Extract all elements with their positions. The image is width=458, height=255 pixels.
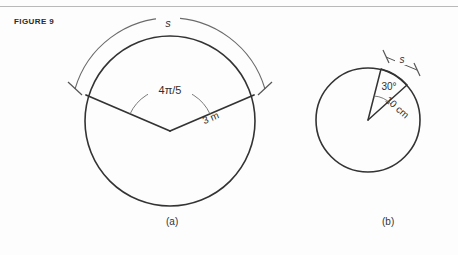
panel-a-angle-label: 4π/5 bbox=[159, 84, 182, 96]
panel-b-arc-label: s bbox=[400, 54, 405, 65]
caption-panel-b: (b) bbox=[382, 216, 394, 227]
panel-b-angle-label: 30° bbox=[381, 81, 396, 92]
panel-a-circle bbox=[85, 36, 255, 206]
panel-a-arc-tick-left bbox=[68, 82, 82, 95]
caption-panel-a: (a) bbox=[166, 216, 178, 227]
panel-a-radius-label: 3 m bbox=[201, 109, 221, 126]
panel-a-group: s 4π/5 3 m bbox=[68, 16, 272, 206]
panel-a-arc-label: s bbox=[165, 17, 171, 29]
panel-a-arc-tick-right bbox=[258, 82, 272, 95]
panel-b-radius-label: 10 cm bbox=[384, 94, 412, 120]
panel-b-arc-tick-left bbox=[383, 50, 389, 63]
panel-b-group: s 30° 10 cm bbox=[316, 50, 420, 172]
panel-a-radius-left bbox=[86, 95, 170, 131]
panel-b-radius-left bbox=[368, 69, 381, 120]
figure-container: FIGURE 9 s 4π/5 3 bbox=[0, 0, 458, 255]
